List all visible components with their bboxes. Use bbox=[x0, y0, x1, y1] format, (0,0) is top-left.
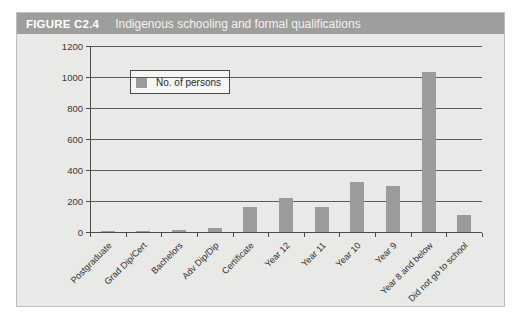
y-axis-tick-label: 1000 bbox=[62, 72, 83, 83]
x-axis-tick-mark bbox=[90, 233, 91, 237]
bar-slot bbox=[375, 46, 411, 232]
bar-slot bbox=[197, 46, 233, 232]
figure-number: FIGURE C2.4 bbox=[17, 18, 99, 30]
figure-panel: FIGURE C2.4 Indigenous schooling and for… bbox=[16, 12, 505, 307]
y-axis-tick-label: 400 bbox=[67, 165, 83, 176]
bar-slot bbox=[90, 46, 126, 232]
bar[interactable] bbox=[101, 231, 115, 232]
y-axis-tick-label: 200 bbox=[67, 196, 83, 207]
y-axis-tick-label: 0 bbox=[78, 227, 83, 238]
y-axis-tick-label: 1200 bbox=[62, 41, 83, 52]
figure-header: FIGURE C2.4 Indigenous schooling and for… bbox=[17, 13, 504, 34]
bar-slot bbox=[339, 46, 375, 232]
figure-title: Indigenous schooling and formal qualific… bbox=[99, 17, 361, 31]
bar[interactable] bbox=[422, 72, 436, 232]
bar[interactable] bbox=[208, 228, 222, 232]
bar[interactable] bbox=[172, 230, 186, 232]
bar[interactable] bbox=[350, 182, 364, 232]
y-axis-tick-label: 600 bbox=[67, 134, 83, 145]
bar[interactable] bbox=[315, 207, 329, 232]
bar-slot bbox=[411, 46, 447, 232]
bar-slot bbox=[304, 46, 340, 232]
chart-plot-wrapper: 020040060080010001200 No. of persons Pos… bbox=[17, 34, 504, 306]
y-axis-tick-label: 800 bbox=[67, 103, 83, 114]
bar-slot bbox=[268, 46, 304, 232]
y-axis-labels: 020040060080010001200 bbox=[17, 34, 83, 306]
bar[interactable] bbox=[386, 186, 400, 232]
x-axis-labels: PostgraduateGrad Dip/CertBachelorsAdv Di… bbox=[90, 239, 482, 309]
